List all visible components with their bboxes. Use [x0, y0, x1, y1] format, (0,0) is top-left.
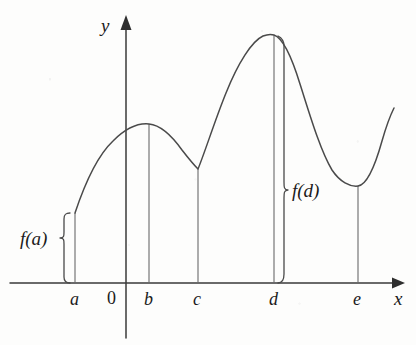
tick-label-d: d: [269, 290, 278, 308]
brace-f-of-a: [60, 213, 70, 283]
tick-label-a: a: [70, 290, 79, 308]
y-axis: [121, 15, 132, 338]
x-axis-label: x: [394, 289, 402, 308]
y-axis-arrowhead: [121, 15, 132, 30]
label-f-of-a: f(a): [20, 229, 47, 248]
brace-f-of-d: [278, 36, 288, 283]
tick-label-c: c: [193, 290, 201, 308]
function-graph-figure: y x 0 a b c d e f(a) f(d): [0, 0, 416, 345]
drop-lines: [75, 35, 358, 283]
x-axis-arrowhead: [392, 278, 405, 289]
tick-label-b: b: [144, 290, 153, 308]
origin-label: 0: [107, 289, 116, 307]
function-curve: [75, 34, 394, 213]
y-axis-label: y: [101, 16, 109, 35]
tick-label-e: e: [353, 290, 361, 308]
label-f-of-d: f(d): [292, 181, 319, 200]
